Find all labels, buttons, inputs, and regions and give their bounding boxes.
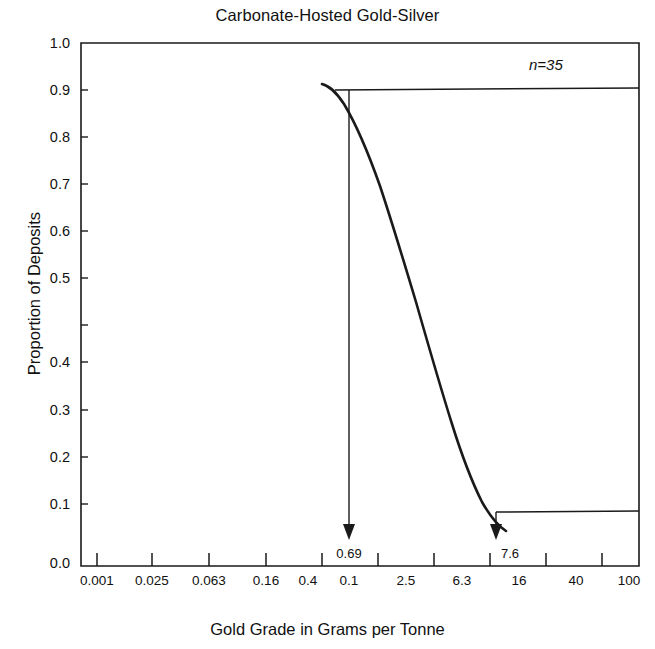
plot-frame	[81, 43, 639, 566]
chart-figure: Carbonate-Hosted Gold-Silver Proportion …	[0, 0, 655, 649]
upper-percentile-line	[335, 88, 639, 90]
lower-percentile-line	[496, 511, 639, 512]
lower-grade-arrow-icon	[343, 524, 355, 540]
plot-canvas	[0, 0, 655, 649]
y-axis-ticks	[81, 90, 88, 504]
x-axis-ticks	[97, 553, 602, 566]
